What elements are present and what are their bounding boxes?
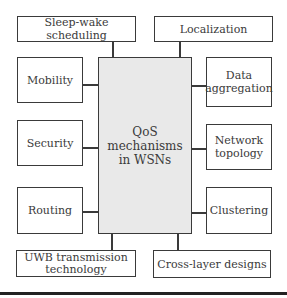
node-cross-layer-designs: Cross-layer designs — [153, 250, 271, 278]
node-sleep-wake-scheduling: Sleep-wake scheduling — [17, 16, 136, 42]
bottom-rule — [0, 292, 287, 295]
node-label-line-1: UWB transmission — [24, 252, 128, 264]
connector-network-topology — [192, 148, 206, 150]
connector-sleep-wake — [112, 42, 114, 57]
node-localization: Localization — [154, 16, 273, 42]
connector-clustering — [192, 212, 206, 214]
node-label: Mobility — [27, 74, 73, 87]
node-data-aggregation: Data aggregation — [206, 57, 272, 107]
node-label-line-2: technology — [24, 264, 128, 276]
center-line-3: in WSNs — [107, 153, 182, 167]
node-label-line-1: Data — [205, 69, 273, 82]
connector-data-aggregation — [192, 85, 206, 87]
node-network-topology: Network topology — [206, 124, 272, 170]
node-uwb-transmission-technology: UWB transmission technology — [16, 250, 136, 277]
node-routing: Routing — [17, 187, 83, 234]
node-security: Security — [17, 120, 83, 166]
node-label: Sleep-wake scheduling — [18, 16, 135, 42]
connector-routing — [83, 211, 98, 213]
node-label: Security — [27, 137, 74, 150]
node-label-line-2: aggregation — [205, 82, 273, 95]
node-clustering: Clustering — [206, 187, 272, 234]
node-label: Localization — [180, 23, 248, 36]
node-label: Clustering — [210, 204, 269, 217]
connector-uwb — [111, 234, 113, 250]
node-label: Routing — [28, 204, 72, 217]
qos-diagram: QoS mechanisms in WSNs Sleep-wake schedu… — [0, 0, 287, 298]
center-line-1: QoS — [107, 125, 182, 139]
connector-security — [83, 147, 98, 149]
connector-localization — [179, 42, 181, 57]
node-label: Cross-layer designs — [157, 258, 266, 271]
node-label-line-2: topology — [215, 147, 264, 160]
node-mobility: Mobility — [17, 57, 83, 103]
center-line-2: mechanisms — [107, 139, 182, 153]
connector-mobility — [83, 84, 98, 86]
node-label-line-1: Network — [215, 134, 264, 147]
connector-cross-layer — [177, 234, 179, 250]
center-node-qos-mechanisms: QoS mechanisms in WSNs — [98, 57, 192, 234]
